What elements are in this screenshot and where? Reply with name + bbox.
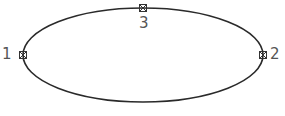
- point-label-2: 2: [270, 47, 280, 62]
- point-label-1: 1: [2, 47, 12, 62]
- point-label-3: 3: [139, 16, 149, 31]
